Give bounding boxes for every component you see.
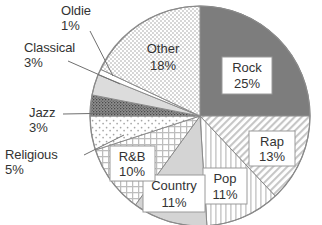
slice-label-other-pct: 18% <box>150 58 176 73</box>
slice-label-rap-name: Rap <box>260 134 284 149</box>
slice-label-rnb-name: R&B <box>119 149 146 164</box>
external-label-oldie: Oldie 1% <box>61 3 91 33</box>
external-label-jazz-name: Jazz <box>29 105 55 120</box>
external-label-religious-name: Religious <box>5 147 58 162</box>
external-label-jazz: Jazz 3% <box>29 105 55 135</box>
external-label-classical: Classical 3% <box>24 40 75 70</box>
slice-label-rnb-pct: 10% <box>119 164 145 179</box>
external-label-jazz-pct: 3% <box>29 120 55 135</box>
external-label-oldie-name: Oldie <box>61 3 91 18</box>
external-label-religious: Religious 5% <box>5 147 58 177</box>
pie-chart-figure: Rock 25% Rap 13% Pop 11% Country 11% R&B… <box>0 0 322 225</box>
slice-label-pop-name: Pop <box>213 171 236 186</box>
slice-label-country-pct: 11% <box>161 195 186 210</box>
external-label-classical-name: Classical <box>24 40 75 55</box>
slice-label-pop-pct: 11% <box>212 187 237 202</box>
slice-label-rock-pct: 25% <box>234 76 260 91</box>
external-label-religious-pct: 5% <box>5 162 58 177</box>
slice-label-country-name: Country <box>151 178 197 193</box>
external-label-classical-pct: 3% <box>24 55 75 70</box>
slice-label-rock-name: Rock <box>232 60 262 75</box>
slice-label-other-name: Other <box>147 41 180 56</box>
slice-label-rap-pct: 13% <box>259 149 285 164</box>
external-label-oldie-pct: 1% <box>61 18 91 33</box>
